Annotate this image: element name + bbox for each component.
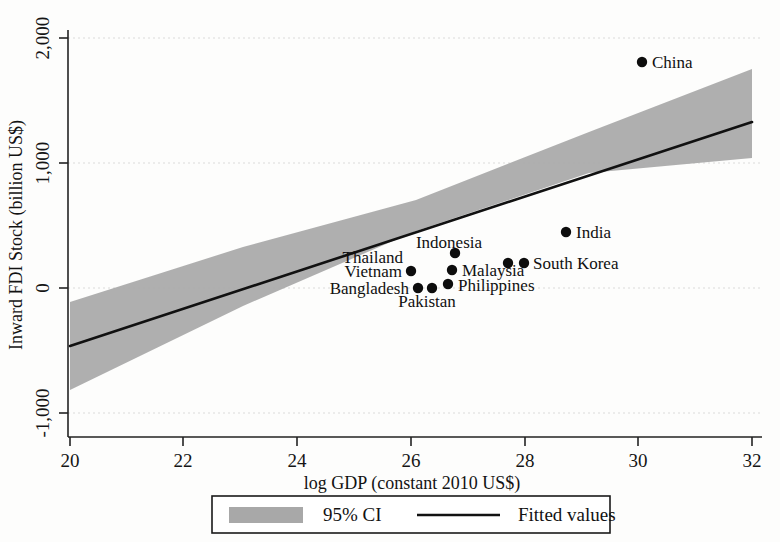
legend-fit-label: Fitted values <box>518 504 616 525</box>
x-axis-title: log GDP (constant 2010 US$) <box>304 473 520 494</box>
point-label-indonesia: Indonesia <box>416 233 483 252</box>
point-philippines[interactable] <box>443 279 453 289</box>
point-china[interactable] <box>637 57 647 67</box>
point-label-south-korea: South Korea <box>533 254 619 273</box>
point-label-pakistan: Pakistan <box>398 292 456 311</box>
x-tick-label-22: 22 <box>174 450 193 471</box>
point-malaysia[interactable] <box>447 265 457 275</box>
point-vietnam[interactable] <box>406 266 416 276</box>
x-tick-label-32: 32 <box>743 450 762 471</box>
y-tick-label-2000: 2,000 <box>32 17 53 60</box>
y-axis-title: Inward FDI Stock (billion US$) <box>6 120 27 350</box>
confidence-interval-band <box>70 69 752 390</box>
point-label-india: India <box>576 223 611 242</box>
y-tick-marks <box>59 38 68 413</box>
fitted-regression-line <box>70 122 752 346</box>
chart-canvas: 2,000 1,000 0 -1,000 Inward FDI Stock (b… <box>0 0 780 542</box>
scatter-plot-figure: 2,000 1,000 0 -1,000 Inward FDI Stock (b… <box>0 0 780 542</box>
point-india[interactable] <box>561 227 571 237</box>
x-tick-label-30: 30 <box>629 450 648 471</box>
point-label-china: China <box>652 53 693 72</box>
x-tick-label-24: 24 <box>288 450 308 471</box>
chart-legend: 95% CI Fitted values <box>212 496 616 533</box>
legend-ci-label: 95% CI <box>323 504 382 525</box>
y-tick-label-1000: 1,000 <box>32 142 53 185</box>
x-tick-label-20: 20 <box>61 450 80 471</box>
y-tick-label-neg1000: -1,000 <box>32 388 53 437</box>
legend-ci-swatch <box>229 507 303 523</box>
point-label-philippines: Philippines <box>458 276 535 295</box>
x-tick-label-26: 26 <box>402 450 421 471</box>
y-tick-label-0: 0 <box>32 283 53 293</box>
x-tick-label-28: 28 <box>516 450 535 471</box>
x-tick-marks <box>70 437 752 446</box>
